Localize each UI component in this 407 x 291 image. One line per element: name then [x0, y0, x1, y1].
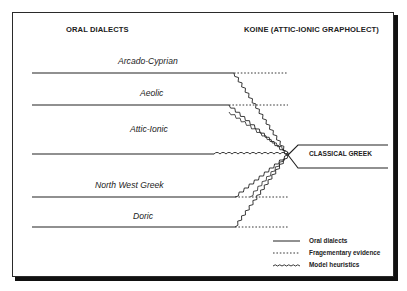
heuristic-wave-attic-ionic — [214, 152, 288, 154]
dialect-label-arcado-cyprian: Arcado-Cyprian — [118, 56, 178, 66]
legend-sample-wavy — [273, 265, 300, 266]
heuristic-zigzag-arcado-cyprian — [234, 73, 288, 155]
legend-label-fragmentary-evidence: Fragementary evidence — [309, 249, 380, 256]
dialect-label-north-west-greek: North West Greek — [95, 180, 164, 190]
legend-label-oral-dialects: Oral dialects — [309, 237, 347, 244]
legend-label-model-heuristics: Model heuristics — [309, 261, 359, 268]
classical-greek-label: CLASSICAL GREEK — [309, 150, 372, 157]
heuristic-zigzag-north-west-greek — [235, 155, 288, 197]
dialect-label-aeolic: Aeolic — [140, 88, 163, 98]
heuristic-zigzag-nwgreek-2 — [250, 158, 285, 197]
dialect-label-attic-ionic: Attic-Ionic — [130, 124, 168, 134]
heuristic-zigzag-doric — [235, 155, 288, 227]
heuristic-zigzag-aeolic-2 — [229, 112, 286, 151]
heuristic-zigzag-aeolic — [229, 105, 288, 155]
dialect-label-doric: Doric — [133, 211, 153, 221]
diagram-canvas: ORAL DIALECTS KOINE (ATTIC-IONIC GRAPHOL… — [0, 0, 407, 291]
dialect-lines — [0, 0, 407, 291]
